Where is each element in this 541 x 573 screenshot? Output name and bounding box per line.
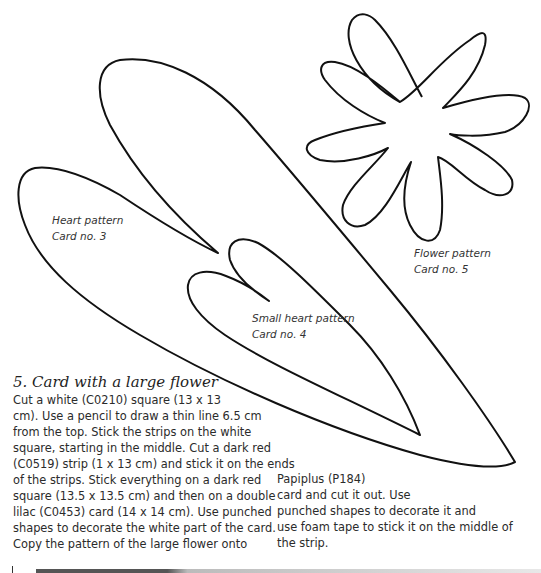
heart-pattern-title: Heart pattern <box>52 212 123 228</box>
instruction-line: lilac (C0453) card (14 x 14 cm). Use pun… <box>13 504 278 520</box>
flower-pattern-label: Flower pattern Card no. 5 <box>414 245 491 277</box>
page-margin-tick <box>12 566 13 573</box>
instruction-line: Cut a white (C0210) square (13 x 13 <box>13 392 278 408</box>
instruction-line: square (13.5 x 13.5 cm) and then on a do… <box>13 488 278 504</box>
flower-pattern-outline <box>307 14 529 240</box>
instruction-line: of the strips. Stick everything on a dar… <box>13 472 278 488</box>
small-heart-pattern-title: Small heart pattern <box>252 310 355 326</box>
instruction-line: from the top. Stick the strips on the wh… <box>13 424 278 440</box>
small-heart-pattern-label: Small heart pattern Card no. 4 <box>252 310 355 342</box>
instruction-line: square, starting in the middle. Cut a da… <box>13 440 278 456</box>
instruction-line: Copy the pattern of the large flower ont… <box>13 536 278 552</box>
instructions-right-column: Papiplus (P184) card and cut it out. Use… <box>277 471 532 551</box>
instruction-line: (C0519) strip (1 x 13 cm) and stick it o… <box>13 456 278 472</box>
instruction-line: the strip. <box>277 535 532 551</box>
flower-pattern-title: Flower pattern <box>414 245 491 261</box>
instruction-line: Papiplus (P184) <box>277 471 532 487</box>
heart-pattern-label: Heart pattern Card no. 3 <box>52 212 123 244</box>
instructions-left-column: Cut a white (C0210) square (13 x 13 cm).… <box>13 392 278 552</box>
flower-pattern-card: Card no. 5 <box>414 261 491 277</box>
section-heading: 5. Card with a large flower <box>13 373 218 391</box>
heart-pattern-card: Card no. 3 <box>52 228 123 244</box>
instruction-line: punched shapes to decorate it and <box>277 503 532 519</box>
instruction-line: cm). Use a pencil to draw a thin line 6.… <box>13 408 278 424</box>
bottom-rule <box>36 569 541 573</box>
instruction-line: shapes to decorate the white part of the… <box>13 520 278 536</box>
small-heart-pattern-card: Card no. 4 <box>252 326 355 342</box>
instruction-line: use foam tape to stick it on the middle … <box>277 519 532 535</box>
instruction-line: card and cut it out. Use <box>277 487 532 503</box>
